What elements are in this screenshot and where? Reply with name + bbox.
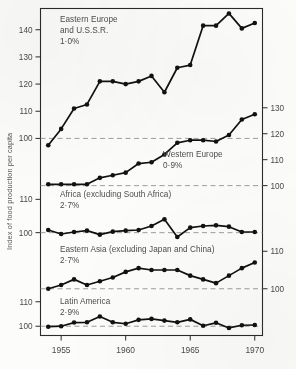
data-point	[227, 273, 232, 278]
y-tick-label-right: 100	[271, 285, 285, 294]
series-growth-rate: 2·7%	[60, 256, 79, 265]
data-point	[136, 228, 141, 233]
data-point	[201, 138, 206, 143]
y-tick-label: 120	[19, 80, 33, 89]
data-point	[110, 229, 115, 234]
data-point	[201, 323, 206, 328]
data-point	[252, 21, 257, 26]
data-point	[214, 23, 219, 28]
y-tick-label: 130	[19, 53, 33, 62]
data-point	[98, 79, 103, 84]
data-point	[98, 176, 103, 181]
data-point	[252, 260, 257, 265]
data-point	[98, 314, 103, 319]
data-point	[175, 235, 180, 240]
data-point	[214, 321, 219, 326]
data-point	[98, 279, 103, 284]
y-tick-label-right: 120	[271, 130, 285, 139]
data-point	[123, 270, 128, 275]
series-label: Western Europe	[163, 150, 223, 159]
y-tick-label-right: 100	[271, 182, 285, 191]
data-point	[110, 275, 115, 280]
series-line	[48, 114, 255, 184]
data-point	[110, 173, 115, 178]
data-point	[46, 143, 51, 148]
data-point	[59, 324, 64, 329]
plot-frame	[41, 9, 263, 336]
data-point	[214, 223, 219, 228]
data-point	[214, 139, 219, 144]
series-label: Africa (excluding South Africa)	[60, 190, 171, 199]
series-growth-rate: 2·7%	[60, 201, 79, 210]
series-label: Latin America	[60, 297, 111, 306]
data-point	[175, 65, 180, 70]
data-point	[188, 63, 193, 68]
data-point	[227, 224, 232, 229]
x-tick-label: 1965	[181, 345, 200, 355]
data-point	[175, 268, 180, 273]
data-point	[59, 182, 64, 187]
data-point	[123, 321, 128, 326]
data-point	[110, 320, 115, 325]
data-point	[110, 79, 115, 84]
x-tick-label: 1960	[116, 345, 135, 355]
x-tick-label: 1970	[245, 345, 264, 355]
data-point	[188, 317, 193, 322]
data-point	[162, 268, 167, 273]
data-point	[252, 230, 257, 235]
data-point	[162, 318, 167, 323]
data-point	[188, 225, 193, 230]
data-point	[98, 232, 103, 237]
y-tick-label: 110	[19, 107, 32, 116]
left-axis-ticks: 100110120130140100110100110	[19, 26, 41, 331]
data-point	[188, 273, 193, 278]
data-point	[162, 217, 167, 222]
y-tick-label-right: 110	[271, 156, 284, 165]
data-point	[85, 182, 90, 187]
data-series-group	[46, 11, 257, 330]
y-axis-title: Index of food production per capita	[5, 132, 14, 250]
data-point	[136, 79, 141, 84]
right-axis-ticks: 100110120130100110	[263, 104, 285, 294]
series-line	[48, 263, 255, 289]
figure-canvas: Index of food production per capita 1001…	[0, 0, 296, 369]
data-point	[227, 326, 232, 331]
data-point	[240, 230, 245, 235]
data-point	[201, 23, 206, 28]
data-point	[46, 228, 51, 233]
data-point	[227, 11, 232, 16]
data-point	[175, 320, 180, 325]
data-point	[72, 230, 77, 235]
data-point	[252, 112, 257, 117]
data-point	[46, 286, 51, 291]
data-point	[85, 283, 90, 288]
y-tick-label: 110	[19, 298, 32, 307]
data-point	[72, 106, 77, 111]
data-point	[72, 320, 77, 325]
data-point	[240, 117, 245, 122]
y-tick-label: 140	[19, 26, 33, 35]
data-point	[188, 138, 193, 143]
data-point	[59, 127, 64, 132]
y-tick-label: 110	[19, 195, 32, 204]
data-point	[85, 228, 90, 233]
y-tick-label-right: 110	[271, 247, 284, 256]
data-point	[149, 317, 154, 322]
data-point	[149, 160, 154, 165]
data-point	[123, 170, 128, 175]
data-point	[240, 266, 245, 271]
data-point	[149, 74, 154, 79]
series-growth-rate: 2·9%	[60, 308, 79, 317]
data-point	[136, 161, 141, 166]
data-point	[123, 82, 128, 87]
data-point	[59, 283, 64, 288]
data-point	[72, 182, 77, 187]
data-point	[201, 277, 206, 282]
y-tick-label: 100	[19, 322, 33, 331]
series-label: Eastern Asia (excluding Japan and China)	[60, 245, 215, 254]
series-label: Eastern Europe	[60, 15, 118, 24]
x-axis-ticks: 1955196019651970	[52, 336, 265, 355]
data-point	[214, 281, 219, 286]
data-point	[136, 266, 141, 271]
data-point	[149, 224, 154, 229]
